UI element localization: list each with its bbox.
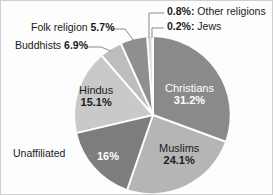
pie-chart-figure: 0.8%: Other religions 0.2%: Jews Folk re… [0, 0, 273, 195]
label-other-religions-name: Other religions [197, 5, 265, 17]
label-christians-pct: 31.2% [165, 95, 214, 107]
label-buddhists-pct: 6.9% [64, 39, 88, 51]
label-other-religions-pct: 0.8%: [167, 5, 194, 17]
label-buddhists-name: Buddhists [15, 39, 61, 51]
label-unaffiliated-name: Unaffiliated [13, 148, 65, 159]
label-folk-religion: Folk religion 5.7% [31, 22, 114, 33]
label-jews-name: Jews [197, 20, 221, 32]
label-buddhists: Buddhists 6.9% [15, 40, 88, 51]
label-hindus: Hindus 15.1% [79, 85, 113, 109]
label-folk-religion-name: Folk religion [31, 21, 88, 33]
label-muslims-pct: 24.1% [159, 155, 199, 167]
label-jews: 0.2%: Jews [167, 21, 221, 32]
label-unaffiliated-pct: 16% [97, 151, 119, 163]
label-christians: Christians 31.2% [165, 83, 214, 107]
leader-line-other-religions [149, 13, 164, 38]
leader-line-buddhists [86, 47, 111, 51]
leader-line-jews [152, 28, 164, 38]
label-hindus-pct: 15.1% [79, 97, 113, 109]
label-other-religions: 0.8%: Other religions [167, 6, 266, 17]
label-muslims: Muslims 24.1% [159, 143, 199, 167]
label-folk-religion-pct: 5.7% [91, 21, 115, 33]
label-jews-pct: 0.2%: [167, 20, 194, 32]
